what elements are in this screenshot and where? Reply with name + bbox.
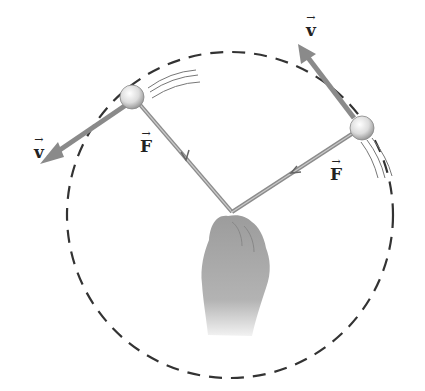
velocity-arrow-left <box>40 105 126 164</box>
motion-lines-left <box>148 70 200 98</box>
ball-left <box>120 85 144 109</box>
ball-right <box>350 116 374 140</box>
diagram-canvas <box>0 0 425 391</box>
velocity-label-left: → v <box>34 142 44 162</box>
force-label-right: → F <box>330 164 342 184</box>
string-left <box>136 100 232 212</box>
velocity-label-right: → v <box>306 20 316 40</box>
hand <box>201 215 269 336</box>
force-label-left: → F <box>140 136 152 156</box>
velocity-arrow-right <box>298 44 354 118</box>
